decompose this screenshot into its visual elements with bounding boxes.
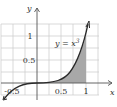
tick-label-y-1: 1	[27, 32, 32, 41]
x-axis-label: x	[110, 88, 115, 97]
tick-label-x-0.5: 0.5	[55, 87, 68, 96]
equation-label: y = x3	[54, 37, 80, 48]
equation-main: y = x	[54, 39, 76, 48]
tick-label-x-neg-0.5: -0.5	[4, 87, 19, 96]
tick-label-x-1: 1	[83, 87, 88, 96]
cubic-function-plot: y x 1 0.5 -0.5 0.5 1 y = x3	[0, 0, 117, 107]
equation-exponent: 3	[76, 37, 80, 44]
tick-label-y-0.5: 0.5	[23, 56, 36, 65]
y-axis-label: y	[26, 4, 32, 13]
